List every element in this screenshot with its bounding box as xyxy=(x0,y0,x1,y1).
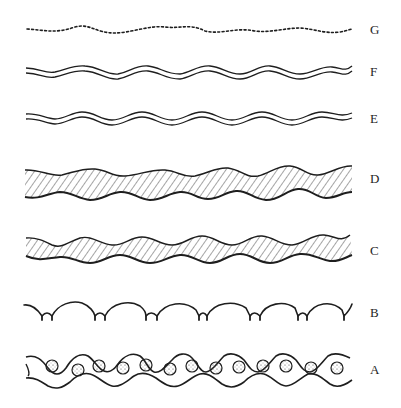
label-d: D xyxy=(370,172,379,185)
pattern-drawing xyxy=(0,0,401,408)
pattern-g-dotted-line xyxy=(27,26,353,33)
label-g: G xyxy=(370,23,379,36)
pattern-e-double-line xyxy=(26,112,352,125)
label-e: E xyxy=(370,112,378,125)
pattern-c-hatched-band xyxy=(26,235,352,263)
label-c: C xyxy=(370,244,379,257)
pattern-d-hatched-band xyxy=(25,166,352,200)
label-b: B xyxy=(370,306,379,319)
label-a: A xyxy=(370,363,379,376)
wave-pattern-figure: G F E D C B A xyxy=(0,0,401,408)
label-f: F xyxy=(370,65,377,78)
pattern-a-wave-circles xyxy=(26,354,352,388)
pattern-f-double-line xyxy=(26,66,352,79)
pattern-b-scallops xyxy=(24,302,352,320)
